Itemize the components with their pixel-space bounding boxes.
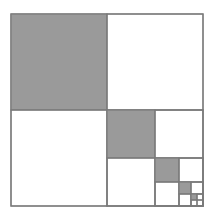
shaded-square-level-1 bbox=[11, 14, 107, 110]
shaded-square-level-5 bbox=[191, 194, 197, 200]
recursive-square-diagram bbox=[0, 0, 214, 220]
shaded-square-level-4 bbox=[179, 182, 191, 194]
shaded-square-level-2 bbox=[107, 110, 155, 158]
shaded-square-level-3 bbox=[155, 158, 179, 182]
